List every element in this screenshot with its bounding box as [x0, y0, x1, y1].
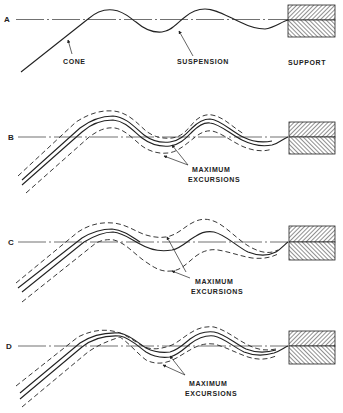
panel-b-support-lower	[289, 137, 335, 154]
panel-d-label: D	[6, 342, 12, 351]
panel-a-support-lower	[288, 20, 335, 37]
panel-d-support-lower	[289, 346, 335, 364]
panel-b-excursions-label-2: EXCURSIONS	[188, 176, 240, 183]
support-label: SUPPORT	[288, 59, 326, 66]
cone-arrow	[68, 40, 72, 54]
panel-b-inner-curve	[22, 116, 272, 180]
panel-d: D MAXIMUM EXCURSIONS	[6, 327, 335, 407]
panel-c-rest-curve	[22, 232, 288, 292]
cone-suspension-diagram: A CONE SUSPENSION SUPPORT B MAXIMUM EXCU…	[0, 0, 343, 413]
panel-c: C MAXIMUM EXCURSIONS	[8, 219, 335, 302]
cone-label: CONE	[63, 58, 86, 65]
panel-b-support-upper	[289, 122, 335, 137]
panel-b: B MAXIMUM EXCURSIONS	[8, 111, 335, 193]
panel-d-arrow-lower	[163, 365, 185, 375]
suspension-arrow	[179, 31, 193, 56]
panel-d-inner-curve	[20, 332, 276, 393]
panel-c-excursions-label-2: EXCURSIONS	[191, 288, 243, 295]
panel-b-rest-curve	[22, 120, 288, 185]
suspension-label: SUSPENSION	[177, 58, 229, 65]
panel-a: A CONE SUSPENSION SUPPORT	[4, 5, 335, 72]
panel-a-support-upper	[288, 5, 335, 20]
panel-c-arrow-lower	[172, 271, 190, 278]
panel-c-label: C	[8, 238, 14, 247]
panel-d-excursions-label-1: MAXIMUM	[189, 380, 227, 387]
panel-c-inner-curve	[18, 229, 140, 288]
panel-b-label: B	[8, 133, 14, 142]
panel-a-cone	[21, 9, 288, 72]
panel-c-support-lower	[289, 242, 335, 260]
panel-d-upper-excursion	[16, 327, 276, 386]
panel-d-excursions-label-2: EXCURSIONS	[185, 390, 237, 397]
panel-a-label: A	[4, 15, 10, 24]
panel-c-excursions-label-1: MAXIMUM	[195, 278, 233, 285]
panel-d-lower-excursion	[22, 337, 276, 407]
panel-d-support-upper	[289, 331, 335, 346]
panel-b-excursions-label-1: MAXIMUM	[192, 166, 230, 173]
panel-c-upper-excursion	[16, 219, 278, 283]
panel-d-arrow-upper	[170, 356, 185, 375]
panel-c-support-upper	[289, 226, 335, 242]
